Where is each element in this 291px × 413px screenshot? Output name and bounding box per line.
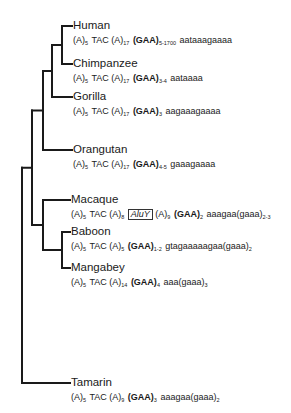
sequence-text: aaagaa(gaaa)	[158, 392, 217, 402]
taxon-label-mangabey: Mangabey	[71, 261, 125, 274]
repeat-count: 2-3	[263, 214, 271, 220]
repeat-count: 4	[157, 282, 160, 288]
sequence-text: gtagaaaaagaa(gaaa)	[163, 241, 249, 251]
taxon-label-baboon: Baboon	[71, 225, 111, 238]
taxon-label-gorilla: Gorilla	[73, 90, 106, 103]
repeat-count: 3	[154, 397, 157, 403]
repeat-count: 5	[85, 111, 88, 117]
repeat-count: 5	[83, 282, 86, 288]
repeat-count: 17	[123, 164, 129, 170]
sequence-text: aataaagaaaa	[177, 35, 232, 45]
repeat-count: 3	[204, 282, 207, 288]
sequence-text: (A)	[153, 209, 168, 219]
sequence-macaque: (A)5 TAC (A)8 AluY (A)9 (GAA)2 aaagaa(ga…	[71, 209, 271, 223]
sequence-text: (A)	[73, 106, 85, 116]
sequence-mangabey: (A)5 TAC (A)14 (GAA)4 aaa(gaaa)3	[71, 277, 209, 291]
sequence-text: (A)	[73, 159, 85, 169]
repeat-count: 3-4	[159, 78, 167, 84]
sequence-text: (A)	[71, 209, 83, 219]
sequence-text: (A)	[73, 73, 85, 83]
repeat-count: 17	[123, 78, 129, 84]
taxon-label-orangutan: Orangutan	[73, 143, 127, 156]
repeat-count: 17	[123, 111, 129, 117]
sequence-human: (A)5 TAC (A)17 (GAA)5-1700 aataaagaaaa	[73, 35, 232, 49]
sequence-text: (A)	[71, 241, 83, 251]
taxon-label-tamarin: Tamarin	[71, 376, 112, 389]
sequence-gorilla: (A)5 TAC (A)17 (GAA)3 aagaaagaaaa	[73, 106, 221, 120]
gaa-repeat: (GAA)	[133, 106, 159, 116]
repeat-count: 5	[85, 40, 88, 46]
repeat-count: 14	[121, 282, 127, 288]
sequence-tamarin: (A)5 TAC (A)9 (GAA)3 aaagaa(gaaa)2	[71, 392, 221, 406]
repeat-count: 2	[216, 397, 219, 403]
sequence-text: (A)	[71, 277, 83, 287]
sequence-text: aaagaa(gaaa)	[204, 209, 263, 219]
sequence-text: (A)	[73, 35, 85, 45]
gaa-repeat: (GAA)	[128, 392, 154, 402]
repeat-count: 5	[83, 246, 86, 252]
sequence-text: TAC (A)	[87, 209, 121, 219]
repeat-count: 4-5	[159, 164, 167, 170]
sequence-text: TAC (A)	[89, 73, 123, 83]
taxon-label-macaque: Macaque	[71, 193, 118, 206]
sequence-text: gaaagaaaa	[168, 159, 216, 169]
alu-insertion-box: AluY	[128, 209, 153, 220]
sequence-text: aaa(gaaa)	[161, 277, 205, 287]
repeat-count: 5	[83, 397, 86, 403]
gaa-repeat: (GAA)	[133, 35, 159, 45]
repeat-count: 9	[121, 397, 124, 403]
phylogenetic-tree	[0, 0, 291, 413]
repeat-count: 2	[200, 214, 203, 220]
taxon-label-chimpanzee: Chimpanzee	[73, 57, 138, 70]
gaa-repeat: (GAA)	[174, 209, 200, 219]
gaa-repeat: (GAA)	[128, 241, 154, 251]
repeat-count: 5	[83, 214, 86, 220]
repeat-count: 8	[121, 214, 124, 220]
sequence-text: aataaaa	[168, 73, 203, 83]
repeat-count: 3	[159, 111, 162, 117]
repeat-count: 1-2	[154, 246, 162, 252]
sequence-text: TAC (A)	[87, 392, 121, 402]
gaa-repeat: (GAA)	[133, 73, 159, 83]
repeat-count: 17	[123, 40, 129, 46]
sequence-text: (A)	[71, 392, 83, 402]
sequence-baboon: (A)5 TAC (A)5 (GAA)1-2 gtagaaaaagaa(gaaa…	[71, 241, 253, 255]
repeat-count: 2	[249, 246, 252, 252]
sequence-text: TAC (A)	[87, 277, 121, 287]
gaa-repeat: (GAA)	[133, 159, 159, 169]
gaa-repeat: (GAA)	[131, 277, 157, 287]
repeat-count: 5	[85, 164, 88, 170]
sequence-text: TAC (A)	[89, 106, 123, 116]
repeat-count: 5-1700	[159, 40, 176, 46]
sequence-text: TAC (A)	[89, 35, 123, 45]
repeat-count: 5	[121, 246, 124, 252]
sequence-chimpanzee: (A)5 TAC (A)17 (GAA)3-4 aataaaa	[73, 73, 203, 87]
taxon-label-human: Human	[73, 19, 110, 32]
repeat-count: 9	[167, 214, 170, 220]
sequence-text: TAC (A)	[87, 241, 121, 251]
sequence-text: TAC (A)	[89, 159, 123, 169]
repeat-count: 5	[85, 78, 88, 84]
sequence-text: aagaaagaaaa	[163, 106, 221, 116]
sequence-orangutan: (A)5 TAC (A)17 (GAA)4-5 gaaagaaaa	[73, 159, 215, 173]
